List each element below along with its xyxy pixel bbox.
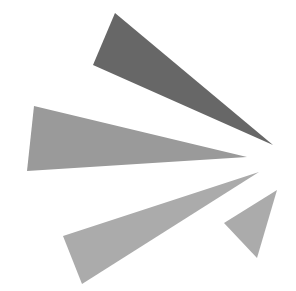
burst-triangles-logo <box>0 0 296 291</box>
small-triangle <box>224 190 277 258</box>
dark-triangle <box>93 13 273 145</box>
